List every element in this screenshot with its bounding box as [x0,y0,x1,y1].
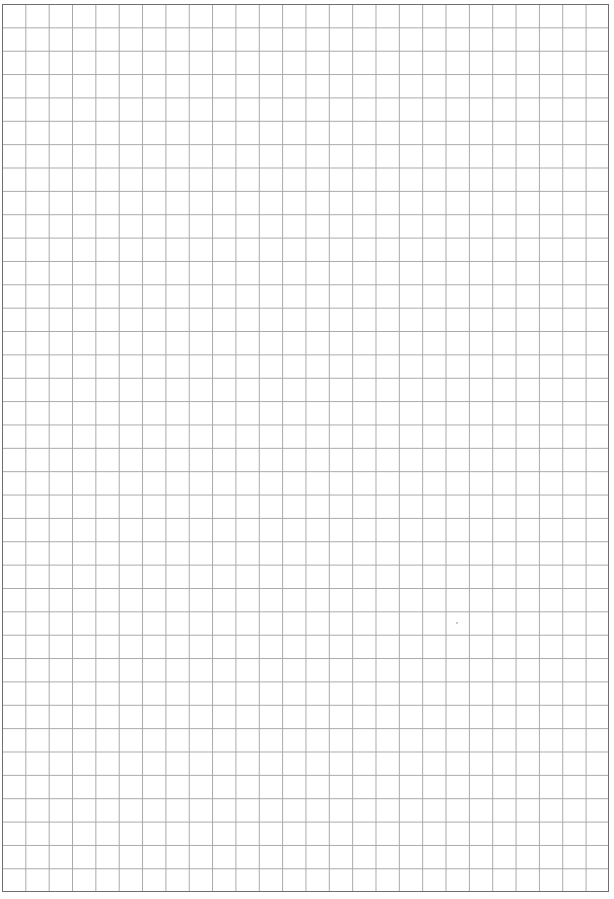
grid-paper-page [0,0,614,899]
grid [2,4,609,892]
paper-speck [456,622,458,624]
